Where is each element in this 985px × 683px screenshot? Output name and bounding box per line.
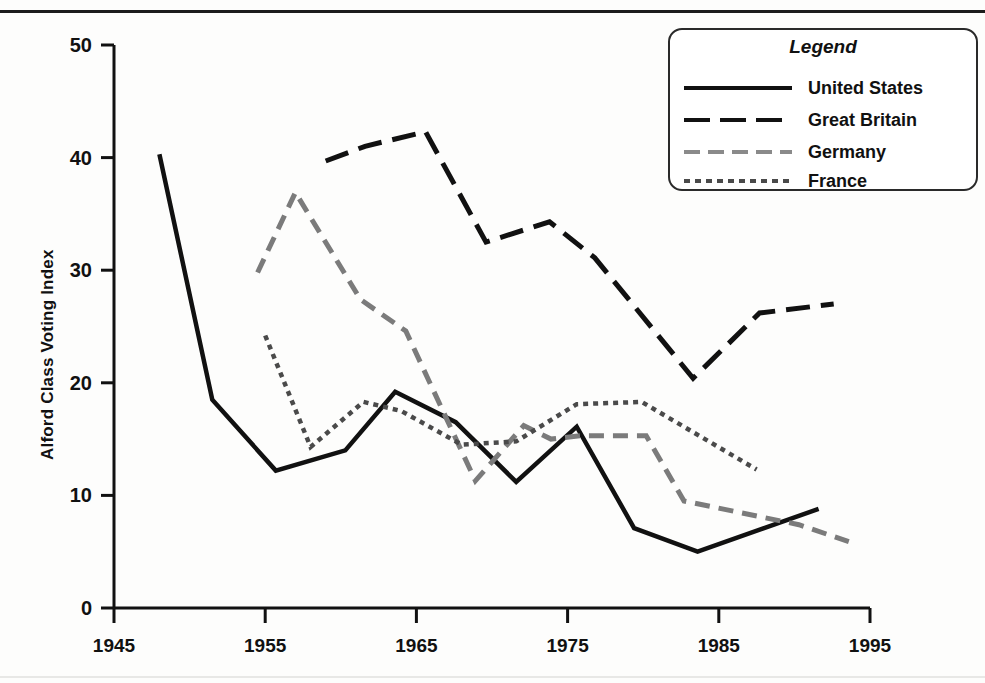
x-tick-label: 1965 — [395, 635, 438, 656]
long-dash-line-icon — [682, 111, 794, 129]
legend-item-united-states[interactable]: United States — [682, 74, 970, 102]
solid-line-icon — [682, 79, 794, 97]
legend-item-france[interactable]: France — [682, 167, 970, 195]
y-tick-label: 50 — [70, 34, 92, 56]
x-tick-label: 1975 — [546, 635, 589, 656]
y-tick-label: 40 — [70, 147, 92, 169]
x-tick-label: 1985 — [698, 635, 741, 656]
y-tick-label: 0 — [81, 597, 92, 619]
legend-label-germany: Germany — [808, 142, 886, 163]
x-tick-label: 1955 — [244, 635, 287, 656]
y-tick-label: 20 — [70, 372, 92, 394]
legend-label-france: France — [808, 171, 867, 192]
legend-item-germany[interactable]: Germany — [682, 138, 970, 166]
legend-item-great-britain[interactable]: Great Britain — [682, 106, 970, 134]
chart-legend: Legend United States Great Britain Germa… — [668, 28, 978, 191]
x-tick-label: 1995 — [849, 635, 892, 656]
dash-line-icon — [682, 143, 794, 161]
series-line-germany — [258, 193, 849, 542]
series-line-france — [265, 336, 756, 470]
dotted-line-icon — [682, 172, 794, 190]
y-axis-title: Alford Class Voting Index — [38, 249, 58, 460]
x-tick-label: 1945 — [93, 635, 136, 656]
y-tick-label: 30 — [70, 259, 92, 281]
chart-figure: 01020304050194519551965197519851995 Alfo… — [0, 0, 985, 683]
y-tick-label: 10 — [70, 484, 92, 506]
legend-title: Legend — [670, 36, 976, 58]
legend-label-united-states: United States — [808, 78, 923, 99]
legend-label-great-britain: Great Britain — [808, 110, 917, 131]
